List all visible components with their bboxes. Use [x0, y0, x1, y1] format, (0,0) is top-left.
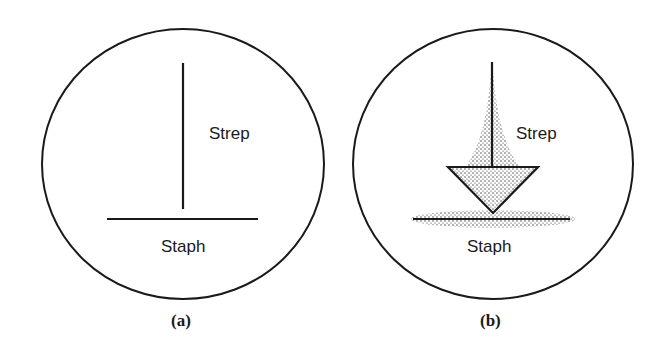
staph-label-a: Staph	[161, 237, 205, 256]
camp-arrowhead-zone	[448, 167, 538, 213]
camp-test-diagram: Strep Staph (a) Strep Staph (b)	[0, 0, 663, 354]
panel-b: Strep Staph (b)	[353, 29, 633, 330]
panel-a: Strep Staph (a)	[42, 29, 324, 330]
staph-label-b: Staph	[467, 237, 511, 256]
strep-label-b: Strep	[516, 124, 557, 143]
strep-label-a: Strep	[209, 124, 250, 143]
caption-a: (a)	[171, 311, 191, 330]
caption-b: (b)	[480, 311, 501, 330]
